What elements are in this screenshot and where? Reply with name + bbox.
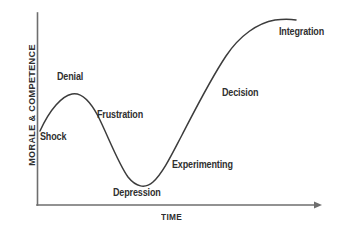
stage-label-shock: Shock xyxy=(40,131,66,142)
y-axis-title: MORALE & COMPETENCE xyxy=(27,25,37,185)
x-axis-title: TIME xyxy=(161,212,182,222)
stage-label-experimenting: Experimenting xyxy=(172,159,233,170)
change-curve-figure: MORALE & COMPETENCE TIME Shock Denial Fr… xyxy=(0,0,344,235)
stage-label-frustration: Frustration xyxy=(97,109,143,120)
stage-label-depression: Depression xyxy=(113,187,161,198)
change-curve-path xyxy=(40,19,296,186)
stage-label-denial: Denial xyxy=(57,71,83,82)
stage-label-integration: Integration xyxy=(279,26,324,37)
stage-label-decision: Decision xyxy=(222,87,258,98)
x-axis-arrow-icon xyxy=(314,202,322,209)
